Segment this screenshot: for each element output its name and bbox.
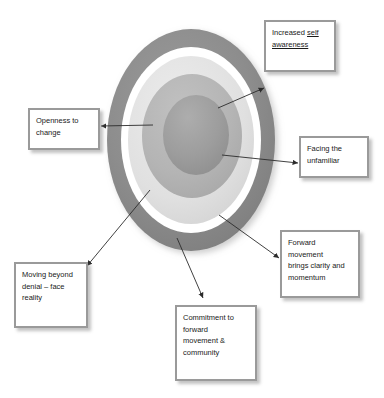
callout-line: Forward [288, 237, 353, 249]
callout-line: community [183, 347, 250, 359]
callout-line: forward [183, 324, 250, 336]
callout-facing-the-unfamiliar[interactable]: Facing the unfamiliar [299, 136, 369, 178]
callout-line: Increased self [272, 27, 329, 39]
callout-line: Openness to [36, 115, 93, 127]
callout-line: Moving beyond [22, 269, 81, 281]
callout-line: Commitment to [183, 312, 250, 324]
callout-line: brings clarity and [288, 260, 353, 272]
diagram-canvas: Increased self awareness Openness to cha… [0, 0, 384, 398]
callout-line: momentum [288, 272, 353, 284]
arrow-to-increased-self-awareness [218, 88, 264, 108]
callout-forward-movement-brings-clarity[interactable]: Forward movement brings clarity and mome… [280, 230, 360, 298]
callout-line: awareness [272, 39, 329, 51]
arrow-to-facing-the-unfamiliar [222, 155, 298, 163]
callout-line: unfamiliar [307, 155, 362, 167]
callout-line: reality [22, 292, 81, 304]
arrow-to-moving-beyond-denial [87, 190, 150, 266]
callout-line: Facing the [307, 143, 362, 155]
arrow-to-commitment-forward [177, 238, 203, 298]
callout-line: denial – face [22, 281, 81, 293]
callout-line: change [36, 127, 93, 139]
callout-commitment-to-forward-movement[interactable]: Commitment to forward movement & communi… [175, 305, 257, 381]
callout-increased-self-awareness[interactable]: Increased self awareness [264, 20, 336, 72]
arrow-to-openness-to-change [101, 125, 153, 126]
arrow-to-forward-movement [219, 215, 279, 258]
callout-moving-beyond-denial[interactable]: Moving beyond denial – face reality [14, 262, 88, 328]
callout-line: movement & [183, 335, 250, 347]
callout-openness-to-change[interactable]: Openness to change [28, 108, 100, 150]
callout-line: movement [288, 249, 353, 261]
